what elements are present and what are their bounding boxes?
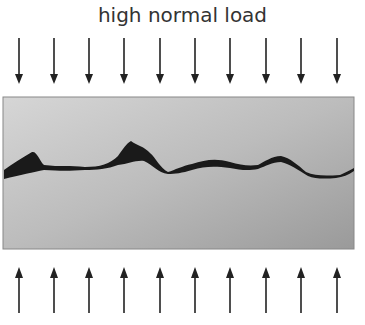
bottom-load-arrows bbox=[15, 267, 341, 313]
contact-diagram bbox=[0, 0, 365, 325]
top-load-arrows bbox=[15, 38, 341, 84]
